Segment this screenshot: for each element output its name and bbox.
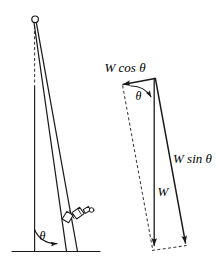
pole-top-eyelet-icon xyxy=(32,16,39,23)
leaning-pole-scene: θ xyxy=(12,16,100,252)
vector-label-w-cos-theta: W cos θ xyxy=(105,60,147,75)
physics-figure: θ θ xyxy=(0,0,220,265)
dashed-resultant-left xyxy=(123,86,153,250)
vector-label-w: W xyxy=(158,184,170,199)
angle-label-right: θ xyxy=(136,89,142,103)
pole-edge-left xyxy=(34,23,67,252)
force-vector-decomposition: θ W cos θ W sin θ W xyxy=(105,60,213,251)
vector-w-cos-theta xyxy=(123,79,155,85)
angle-arc-left xyxy=(35,230,57,244)
clamp-device-icon xyxy=(62,206,94,222)
dashed-base-closure xyxy=(152,246,187,251)
figure-canvas: θ θ xyxy=(0,0,220,265)
vector-label-w-sin-theta: W sin θ xyxy=(173,151,213,166)
angle-label-left: θ xyxy=(40,229,46,243)
